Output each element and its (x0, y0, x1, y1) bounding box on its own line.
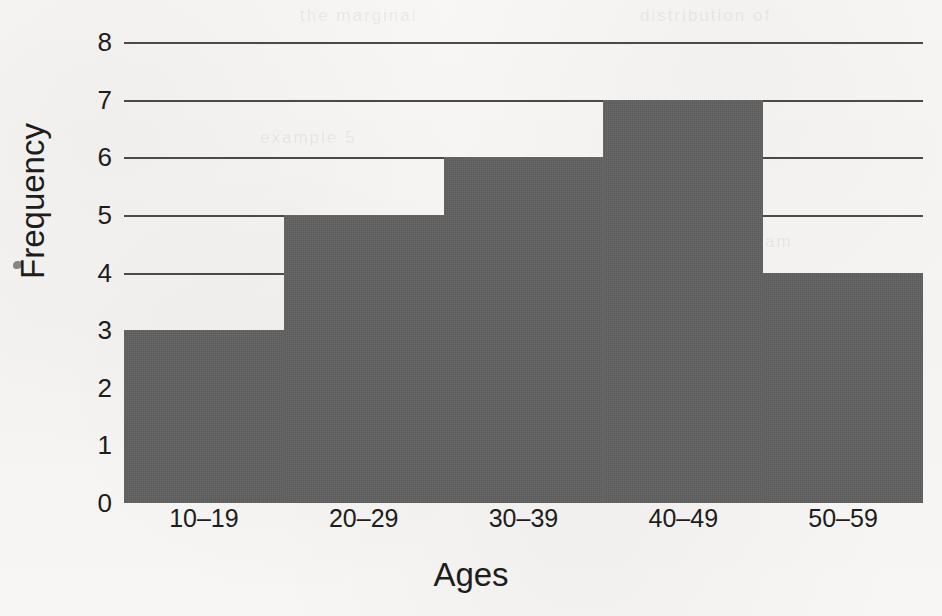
bar-50–59[interactable] (763, 273, 923, 504)
gridline-7 (124, 100, 923, 102)
plot-area (124, 42, 923, 503)
bar-20–29[interactable] (284, 215, 444, 503)
y-tick-6: 6 (76, 144, 112, 170)
x-tick-20–29: 20–29 (284, 506, 444, 531)
y-axis-title: Frequency (14, 101, 52, 301)
x-tick-10–19: 10–19 (124, 506, 284, 531)
bar-40–49[interactable] (603, 100, 763, 503)
histogram-screenshot: the marginal distribution of example 5 h… (0, 0, 942, 616)
bar-10–19[interactable] (124, 330, 284, 503)
ghost-text-0: the marginal (300, 6, 418, 26)
x-axis-title: Ages (0, 556, 942, 594)
y-tick-8: 8 (76, 29, 112, 55)
x-tick-30–39: 30–39 (444, 506, 604, 531)
y-tick-5: 5 (76, 202, 112, 228)
y-tick-0: 0 (76, 490, 112, 516)
y-tick-3: 3 (76, 317, 112, 343)
x-tick-40–49: 40–49 (603, 506, 763, 531)
y-tick-2: 2 (76, 375, 112, 401)
y-axis-tick-labels: 012345678 (70, 0, 112, 616)
gridline-8 (124, 42, 923, 44)
y-tick-4: 4 (76, 260, 112, 286)
x-tick-50–59: 50–59 (763, 506, 923, 531)
bar-30–39[interactable] (444, 157, 603, 503)
ghost-text-1: distribution of (640, 6, 771, 26)
y-tick-7: 7 (76, 87, 112, 113)
y-tick-1: 1 (76, 432, 112, 458)
